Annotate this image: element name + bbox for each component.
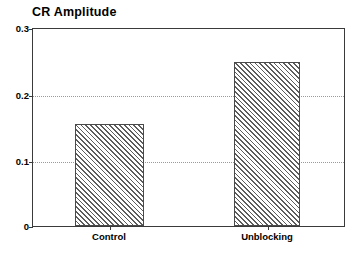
- y-tick-mark-0.1: [29, 162, 33, 163]
- y-tick-label-0: 0: [24, 222, 29, 232]
- x-tick-mark-unblocking: [268, 226, 269, 230]
- y-tick-label-0.3: 0.3: [16, 24, 29, 34]
- bar-chart-figure: CR Amplitude 0.3 0.2 0.1 0 Control Unblo…: [0, 0, 360, 254]
- x-axis-label-control: Control: [92, 231, 126, 242]
- plot-area: 0.3 0.2 0.1 0: [32, 28, 345, 227]
- y-tick-label-0.2: 0.2: [16, 91, 29, 101]
- bar-unblocking[interactable]: [234, 62, 300, 226]
- y-tick-label-0.1: 0.1: [16, 157, 29, 167]
- bar-control[interactable]: [75, 124, 144, 226]
- x-axis-label-unblocking: Unblocking: [241, 231, 293, 242]
- y-tick-mark-0: [29, 227, 33, 228]
- chart-title: CR Amplitude: [32, 5, 117, 20]
- y-tick-mark-0.3: [29, 29, 33, 30]
- x-tick-mark-control: [110, 226, 111, 230]
- y-tick-mark-0.2: [29, 96, 33, 97]
